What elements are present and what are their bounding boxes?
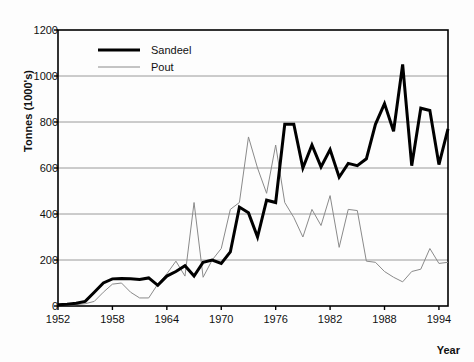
fisheries-landings-line-chart: Tonnes (1000's) Year 0200400600800100012… — [0, 0, 474, 362]
series-line-sandeel — [58, 65, 448, 305]
legend-label-sandeel: Sandeel — [151, 44, 191, 56]
legend-label-pout: Pout — [151, 61, 174, 73]
plot-area: SandeelPout — [0, 0, 474, 362]
